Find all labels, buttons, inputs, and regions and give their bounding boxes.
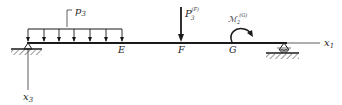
distributed-load-p3: p3 [26, 5, 124, 42]
x1-axis: x1 [287, 37, 334, 50]
M2G-label: ℳ2(G) [228, 12, 247, 25]
beam-diagram: x1 x3 [0, 0, 342, 105]
x1-axis-label: x1 [324, 37, 334, 50]
x3-axis: x3 [23, 48, 34, 104]
P3F-label: P3(F) [184, 6, 199, 21]
left-pin-support [11, 43, 42, 55]
point-G-label: G [229, 44, 237, 55]
distributed-load-arrows [26, 29, 124, 42]
moment-M2: ℳ2(G) [228, 12, 253, 42]
point-E-label: E [117, 44, 125, 55]
p3-label: p3 [75, 5, 86, 18]
right-roller-support [266, 43, 299, 59]
point-force-P3: P3(F) [178, 6, 199, 42]
point-F-label: F [177, 44, 185, 55]
x3-axis-label: x3 [23, 91, 34, 104]
